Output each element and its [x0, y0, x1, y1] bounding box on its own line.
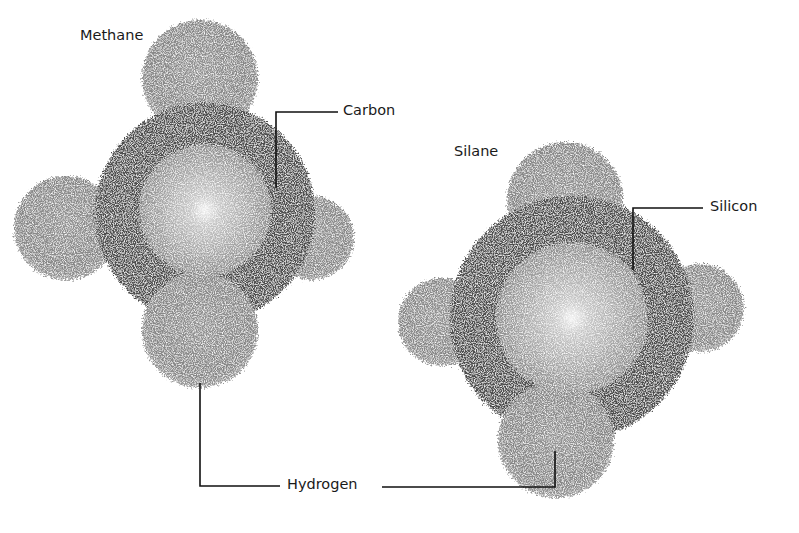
hydrogen-leader-left	[200, 383, 280, 486]
hydrogen-label: Hydrogen	[287, 477, 358, 492]
methane-molecule	[14, 20, 354, 388]
methane-title: Methane	[80, 28, 143, 43]
molecule-diagram	[0, 0, 799, 533]
silane-title: Silane	[454, 144, 498, 159]
silane-molecule	[398, 142, 744, 498]
silane-hydrogen-bottom	[498, 382, 614, 498]
silane-silicon-atom	[496, 242, 648, 394]
carbon-label: Carbon	[343, 103, 395, 118]
methane-hydrogen-bottom	[142, 272, 258, 388]
methane-carbon-atom	[139, 144, 271, 276]
silicon-label: Silicon	[710, 199, 757, 214]
